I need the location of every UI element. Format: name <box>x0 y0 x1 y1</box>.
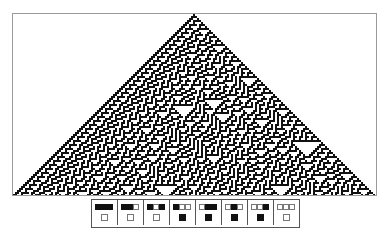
rule-icon-7 <box>274 200 299 225</box>
output-black-cell <box>257 214 264 221</box>
output-white-cell <box>101 214 108 221</box>
neighborhood-pattern <box>147 204 165 210</box>
output-white-cell <box>127 214 134 221</box>
neighborhood-pattern <box>121 204 139 210</box>
neighborhood-pattern <box>173 204 191 210</box>
rule-icon-4 <box>196 200 222 225</box>
output-white-cell <box>283 214 290 221</box>
rule-icon-2 <box>144 200 170 225</box>
output-black-cell <box>231 214 238 221</box>
black-cell <box>211 204 217 210</box>
rule-icon-3 <box>170 200 196 225</box>
output-white-cell <box>153 214 160 221</box>
cellular-automaton-evolution <box>13 14 376 195</box>
output-black-cell <box>179 214 186 221</box>
rule-icon-5 <box>222 200 248 225</box>
white-cell <box>185 204 191 210</box>
white-cell <box>237 204 243 210</box>
black-cell <box>107 204 113 210</box>
output-black-cell <box>205 214 212 221</box>
rule-icon-1 <box>118 200 144 225</box>
white-cell <box>289 204 295 210</box>
black-cell <box>263 204 269 210</box>
automaton-frame <box>12 13 377 196</box>
rule-icon-0 <box>92 200 118 225</box>
black-cell <box>159 204 165 210</box>
white-cell <box>133 204 139 210</box>
rule-icon-6 <box>248 200 274 225</box>
neighborhood-pattern <box>199 204 217 210</box>
rule-icon-strip <box>91 199 300 228</box>
neighborhood-pattern <box>277 204 295 210</box>
neighborhood-pattern <box>225 204 243 210</box>
neighborhood-pattern <box>251 204 269 210</box>
neighborhood-pattern <box>95 204 113 210</box>
